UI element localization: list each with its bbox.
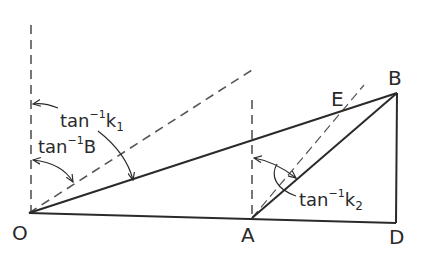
angle-label-k1: tan−1k1 bbox=[60, 108, 124, 134]
label-O: O bbox=[12, 221, 28, 245]
angle-label-k2: tan−1k2 bbox=[299, 187, 363, 213]
label-E: E bbox=[331, 87, 344, 111]
label-A: A bbox=[241, 223, 255, 247]
geometry-diagram: O A D B E tan−1k1 tan−1B tan−1k2 bbox=[0, 0, 421, 266]
angle-arrow-k1-lower bbox=[98, 131, 133, 180]
angle-label-B: tan−1B bbox=[38, 134, 96, 157]
line-OD bbox=[29, 213, 396, 223]
line-BD bbox=[396, 93, 397, 223]
label-B: B bbox=[388, 66, 402, 90]
label-D: D bbox=[389, 225, 404, 249]
angle-arrow-k1 bbox=[33, 104, 58, 108]
angle-arrow-B bbox=[33, 160, 73, 182]
